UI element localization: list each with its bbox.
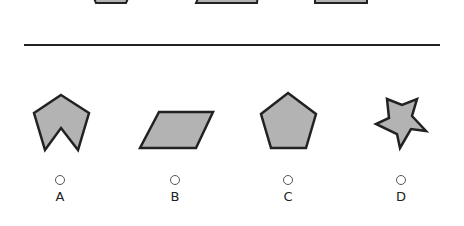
option-a-shape-arrow (34, 95, 89, 150)
partial-shape-2 (196, 0, 258, 3)
radio-button-c[interactable] (283, 175, 293, 185)
option-b-shape-parallelogram (140, 112, 213, 148)
choice-label-d: D (381, 190, 421, 204)
choice-label-c: C (268, 190, 308, 204)
partial-shape-1 (92, 0, 130, 3)
partial-shape-3 (315, 0, 367, 3)
option-c-shape-pentagon (261, 93, 316, 148)
choice-a[interactable]: A (40, 175, 80, 204)
radio-button-a[interactable] (55, 175, 65, 185)
choice-b[interactable]: B (155, 175, 195, 204)
choice-c[interactable]: C (268, 175, 308, 204)
radio-button-d[interactable] (396, 175, 406, 185)
choice-label-a: A (40, 190, 80, 204)
radio-button-b[interactable] (170, 175, 180, 185)
option-d-shape-star (376, 99, 426, 148)
choice-d[interactable]: D (381, 175, 421, 204)
choice-label-b: B (155, 190, 195, 204)
